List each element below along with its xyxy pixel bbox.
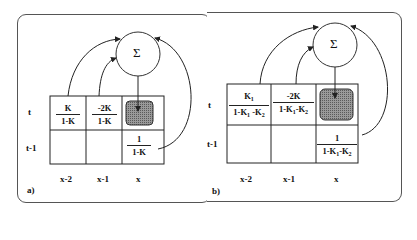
cell-b-t-x1: -2K 1-K1-K2 <box>273 91 314 117</box>
row-label-t1-a: t-1 <box>26 143 37 153</box>
panel-label-a: a) <box>27 185 35 195</box>
cell-b-t-x2: K1 1-K1 -K2 <box>229 91 269 120</box>
panel-a-graph <box>50 32 191 164</box>
col-label-x2-a: x-2 <box>60 174 72 184</box>
cell-b-t1-x: 1 1-K1-K2 <box>317 133 357 159</box>
col-label-x2-b: x-2 <box>240 174 252 184</box>
row-label-t1-b: t-1 <box>207 139 218 149</box>
summation-symbol-a: Σ <box>133 45 141 61</box>
cell-a-t1-x: 1 1-K <box>127 134 151 157</box>
cell-a-t-x2: K 1-K <box>56 103 80 126</box>
col-label-x-b: x <box>334 174 339 184</box>
col-label-x1-a: x-1 <box>97 174 109 184</box>
summation-symbol-b: Σ <box>330 36 338 52</box>
row-label-t-b: t <box>208 100 211 110</box>
panel-label-b: b) <box>212 186 220 196</box>
col-label-x1-b: x-1 <box>283 174 295 184</box>
cell-a-t-x1: -2K 1-K <box>92 103 117 126</box>
row-label-t-a: t <box>28 107 31 117</box>
col-label-x-a: x <box>136 174 141 184</box>
